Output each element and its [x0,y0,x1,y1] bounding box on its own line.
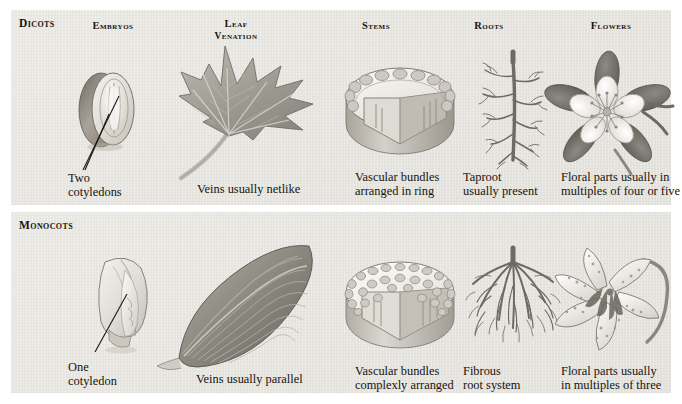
botany-comparison-figure: Dicots Embryos Leaf Venation Stems Roots… [0,0,682,404]
caption-dicot-flowers: Floral parts usually in multiples of fou… [561,170,682,199]
monocots-panel: Monocots [11,212,671,393]
caption-dicot-leaf: Veins usually netlike [197,182,377,196]
trout-lily-flower-illustration [531,242,682,367]
columbine-flower-illustration [531,50,681,175]
monocot-stem-illustration [338,248,466,366]
dicots-panel: Dicots Embryos Leaf Venation Stems Roots… [11,10,671,205]
maple-leaf-illustration [157,38,332,203]
dicot-stem-illustration [338,54,463,169]
column-header-leaf-line1: Leaf [224,18,247,29]
column-header-roots: Roots [439,20,539,32]
monocot-leaf-illustration [151,230,341,370]
caption-dicot-embryos: Two cotyledons [68,171,163,200]
caption-monocot-leaf: Veins usually parallel [196,372,376,386]
caption-monocot-embryos: One cotyledon [68,360,163,389]
caption-monocot-flowers: Floral parts usually in multiples of thr… [561,364,682,393]
caption-monocot-roots: Fibrous root system [463,364,573,393]
column-header-embryos: Embryos [58,20,168,32]
group-label-dicots: Dicots [19,17,55,29]
column-header-flowers: Flowers [556,20,666,32]
column-header-stems: Stems [321,20,431,32]
group-label-monocots: Monocots [19,219,73,231]
